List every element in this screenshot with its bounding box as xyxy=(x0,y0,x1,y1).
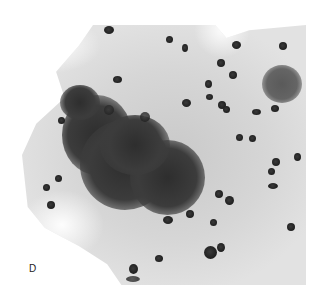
nucleus xyxy=(166,36,173,43)
panel-label: D xyxy=(29,263,36,274)
nucleus xyxy=(204,246,217,259)
nucleus xyxy=(217,243,225,252)
cell-cluster xyxy=(262,65,302,103)
nucleus xyxy=(47,201,55,209)
cell-cluster xyxy=(100,115,170,175)
nucleus xyxy=(104,105,114,115)
nucleus xyxy=(113,76,122,83)
nucleus xyxy=(252,109,261,115)
nucleus xyxy=(249,135,256,142)
nucleus xyxy=(58,117,65,124)
nucleus xyxy=(229,71,237,79)
nucleus xyxy=(126,276,140,282)
nucleus xyxy=(223,106,230,113)
nucleus xyxy=(155,255,163,262)
nucleus xyxy=(210,219,217,226)
nucleus xyxy=(294,153,301,161)
nucleus xyxy=(140,112,150,122)
nucleus xyxy=(271,105,279,112)
nucleus xyxy=(287,223,295,231)
micrograph-figure: D xyxy=(0,0,321,302)
nucleus xyxy=(236,134,243,141)
nucleus xyxy=(182,44,188,52)
nucleus xyxy=(129,264,138,274)
nucleus xyxy=(205,80,212,88)
nucleus xyxy=(206,94,213,100)
nucleus xyxy=(104,26,114,34)
nucleus xyxy=(182,99,191,107)
nucleus xyxy=(225,196,234,205)
nucleus xyxy=(186,210,194,218)
nucleus xyxy=(43,184,50,191)
cell-cluster xyxy=(60,85,100,120)
nucleus xyxy=(217,59,225,67)
nucleus xyxy=(268,183,278,189)
nucleus xyxy=(215,190,223,198)
nucleus xyxy=(232,41,241,49)
nucleus xyxy=(272,158,280,166)
nucleus xyxy=(268,168,275,175)
nucleus xyxy=(55,175,62,182)
nucleus xyxy=(279,42,287,50)
nucleus xyxy=(163,216,173,224)
